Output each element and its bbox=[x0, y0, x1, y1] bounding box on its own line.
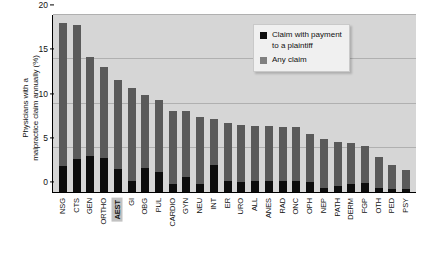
x-axis-tick-label-oph: OPH bbox=[305, 198, 314, 214]
x-axis-tick-label-aest: AEST bbox=[111, 198, 122, 222]
legend-label-paid-claim-line-1: Claim with payment bbox=[272, 30, 342, 39]
legend-item-any-claim: Any claim bbox=[260, 55, 342, 66]
bar-paid-claim bbox=[210, 165, 218, 192]
x-axis-label-column: RAD bbox=[275, 196, 289, 256]
bar-column bbox=[235, 15, 249, 192]
bar-column bbox=[180, 15, 194, 192]
bar-paid-claim bbox=[86, 156, 94, 192]
bar-any-claim bbox=[347, 143, 355, 192]
bar-any-claim bbox=[114, 80, 122, 192]
bar-any-claim bbox=[169, 111, 177, 192]
bar-any-claim bbox=[141, 95, 149, 192]
bar-paid-claim bbox=[182, 177, 190, 192]
x-axis-label-column: ANES bbox=[261, 196, 275, 256]
x-axis-label-column: GEN bbox=[82, 196, 96, 256]
bar-paid-claim bbox=[114, 169, 122, 192]
x-axis-tick-label-pul: PUL bbox=[154, 198, 163, 212]
x-axis-label-column: AEST bbox=[110, 196, 124, 256]
bar-any-claim bbox=[237, 125, 245, 192]
y-axis-tick-label: 15 bbox=[7, 44, 53, 54]
bar-any-claim bbox=[86, 57, 94, 192]
bar-any-claim bbox=[265, 126, 273, 192]
chart-legend: Claim with payment to a plaintiff Any cl… bbox=[253, 24, 350, 72]
bar-paid-claim bbox=[361, 183, 369, 192]
bar-any-claim bbox=[182, 111, 190, 192]
bar-paid-claim bbox=[251, 181, 259, 193]
bar-any-claim bbox=[100, 67, 108, 192]
bar-paid-claim bbox=[334, 186, 342, 192]
bar-any-claim bbox=[155, 100, 163, 192]
x-axis-label-column: PATH bbox=[330, 196, 344, 256]
x-axis-tick-label-onc: ONC bbox=[291, 198, 300, 214]
y-axis-tick-label: 0 bbox=[7, 177, 53, 187]
bar-paid-claim bbox=[141, 168, 149, 192]
x-axis-label-column: OTH bbox=[371, 196, 385, 256]
x-axis-label-column: INT bbox=[206, 196, 220, 256]
y-axis-label-line-2: malpractice claim annually (%) bbox=[31, 13, 41, 203]
x-axis-label-column: FGP bbox=[357, 196, 371, 256]
legend-item-paid-claim: Claim with payment to a plaintiff bbox=[260, 30, 342, 51]
x-axis-label-column: ALL bbox=[247, 196, 261, 256]
x-axis-label-column: DERM bbox=[343, 196, 357, 256]
x-axis-label-column: OPH bbox=[302, 196, 316, 256]
bar-column bbox=[221, 15, 235, 192]
x-axis-tick-label-nsg: NSG bbox=[57, 198, 66, 214]
x-axis-tick-label-rad: RAD bbox=[277, 198, 286, 214]
bar-column bbox=[97, 15, 111, 192]
bar-any-claim bbox=[196, 117, 204, 192]
legend-label-paid-claim: Claim with payment to a plaintiff bbox=[272, 30, 342, 51]
bar-series bbox=[53, 15, 416, 192]
bar-paid-claim bbox=[169, 184, 177, 192]
x-axis-tick-label-psy: PSY bbox=[401, 198, 410, 213]
bar-any-claim bbox=[402, 170, 410, 192]
bar-paid-claim bbox=[279, 181, 287, 192]
x-axis-label-column: PUL bbox=[151, 196, 165, 256]
x-axis-tick-label-ped: PED bbox=[387, 198, 396, 213]
bar-paid-claim bbox=[347, 184, 355, 192]
x-axis-tick-label-gyn: GYN bbox=[181, 198, 190, 214]
chart-figure: Physicians with a malpractice claim annu… bbox=[0, 0, 435, 261]
x-axis-tick-label-nep: NEP bbox=[318, 198, 327, 213]
bar-column bbox=[125, 15, 139, 192]
bar-column bbox=[152, 15, 166, 192]
x-axis-tick-label-obg: OBG bbox=[140, 198, 149, 214]
x-axis-tick-label-anes: ANES bbox=[263, 198, 272, 218]
plot-area: 05101520 bbox=[52, 15, 416, 193]
bar-column bbox=[193, 15, 207, 192]
x-axis-tick-label-cardio: CARDIO bbox=[167, 198, 176, 227]
legend-swatch-black-icon bbox=[260, 32, 267, 39]
bar-column bbox=[138, 15, 152, 192]
y-axis-tick-label: 10 bbox=[7, 89, 53, 99]
bar-paid-claim bbox=[306, 182, 314, 192]
bar-any-claim bbox=[128, 88, 136, 192]
x-axis-label-column: GI bbox=[124, 196, 138, 256]
x-axis-tick-label-neu: NEU bbox=[195, 198, 204, 214]
bar-paid-claim bbox=[100, 158, 108, 192]
bar-column bbox=[386, 15, 400, 192]
bar-any-claim bbox=[306, 134, 314, 192]
bar-any-claim bbox=[320, 139, 328, 192]
x-axis-tick-label-derm: DERM bbox=[346, 198, 355, 220]
x-axis-tick-label-er: ER bbox=[222, 198, 231, 208]
bar-paid-claim bbox=[320, 188, 328, 192]
bar-any-claim bbox=[292, 127, 300, 192]
x-axis-tick-label-gen: GEN bbox=[85, 198, 94, 214]
x-axis-tick-label-int: INT bbox=[208, 198, 217, 210]
x-axis-tick-label-ortho: ORTHO bbox=[99, 198, 108, 224]
bar-any-claim bbox=[361, 146, 369, 192]
y-axis-tick-label: 5 bbox=[7, 133, 53, 143]
legend-label-any-claim: Any claim bbox=[272, 55, 307, 66]
x-axis-label-column: GYN bbox=[179, 196, 193, 256]
bar-column bbox=[399, 15, 413, 192]
x-axis-label-column: PED bbox=[385, 196, 399, 256]
bar-column bbox=[207, 15, 221, 192]
x-axis-label-column: PSY bbox=[398, 196, 412, 256]
bar-column bbox=[358, 15, 372, 192]
legend-label-paid-claim-line-2: to a plaintiff bbox=[272, 41, 313, 50]
bar-any-claim bbox=[59, 23, 67, 192]
x-axis-label-column: NEU bbox=[192, 196, 206, 256]
bar-any-claim bbox=[224, 123, 232, 192]
bar-any-claim bbox=[210, 119, 218, 192]
x-axis-label-column: URO bbox=[234, 196, 248, 256]
bar-any-claim bbox=[279, 127, 287, 192]
